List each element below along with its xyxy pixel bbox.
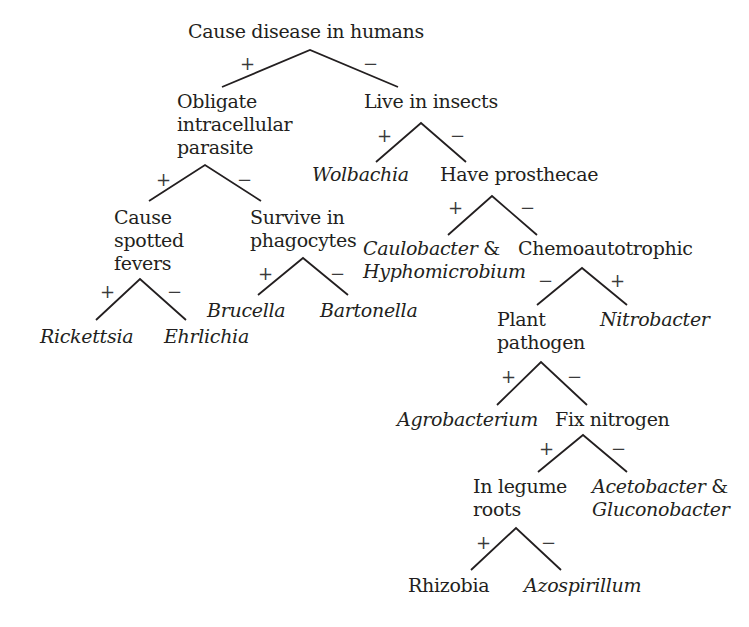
node-label-line: Wolbachia	[312, 163, 409, 186]
plus-branch-sign: +	[539, 440, 554, 458]
tree-node-ehrlichia: Ehrlichia	[164, 325, 249, 348]
node-label-line: Rickettsia	[40, 325, 133, 348]
tree-node-plant: Plantpathogen	[497, 308, 585, 354]
node-label-line: Survive in	[250, 206, 356, 229]
tree-node-rhizobia: Rhizobia	[408, 574, 489, 597]
tree-node-bartonella: Bartonella	[320, 299, 417, 322]
tree-node-chemo: Chemoautotrophic	[518, 237, 693, 260]
node-label-line: Hyphomicrobium	[363, 260, 526, 283]
minus-branch-sign: −	[450, 127, 465, 145]
node-label-line: Obligate	[177, 90, 292, 113]
minus-branch-sign: −	[538, 272, 553, 290]
plus-branch-sign: +	[448, 199, 463, 217]
node-label-line: Ehrlichia	[164, 325, 249, 348]
plus-branch-sign: +	[100, 283, 115, 301]
node-label-line: Bartonella	[320, 299, 417, 322]
node-label-line: pathogen	[497, 331, 585, 354]
node-label-line: spotted	[114, 229, 184, 252]
node-label-line: parasite	[177, 136, 292, 159]
tree-node-spotted: Causespottedfevers	[114, 206, 184, 275]
node-label-line: Chemoautotrophic	[518, 237, 693, 260]
node-label-line: fevers	[114, 252, 184, 275]
tree-node-phagocytes: Survive inphagocytes	[250, 206, 356, 252]
minus-branch-sign: −	[520, 199, 535, 217]
plus-branch-sign: +	[501, 368, 516, 386]
ampersand: &	[477, 237, 499, 259]
plus-branch-sign: +	[258, 265, 273, 283]
tree-node-rickettsia: Rickettsia	[40, 325, 133, 348]
minus-branch-sign: −	[167, 283, 182, 301]
node-label-line: Fix nitrogen	[555, 408, 670, 431]
plus-branch-sign: +	[377, 127, 392, 145]
node-label-line: In legume	[473, 475, 567, 498]
node-label-line: Agrobacterium	[397, 408, 538, 431]
plus-branch-sign: +	[156, 171, 171, 189]
tree-node-obligate: Obligateintracellularparasite	[177, 90, 292, 159]
minus-branch-sign: −	[541, 534, 556, 552]
minus-branch-sign: −	[567, 368, 582, 386]
node-label-line: Gluconobacter	[592, 498, 729, 521]
plus-branch-sign: +	[476, 534, 491, 552]
tree-node-brucella: Brucella	[207, 299, 285, 322]
node-label-line: phagocytes	[250, 229, 356, 252]
node-label-line: Rhizobia	[408, 574, 489, 597]
node-label-line: Nitrobacter	[600, 308, 710, 331]
tree-node-agro: Agrobacterium	[397, 408, 538, 431]
minus-branch-sign: −	[330, 265, 345, 283]
plus-branch-sign: +	[240, 55, 255, 73]
node-label-line: Azospirillum	[524, 574, 641, 597]
ampersand: &	[705, 475, 727, 497]
tree-node-azo: Azospirillum	[524, 574, 641, 597]
tree-node-prosthecae: Have prosthecae	[440, 163, 598, 186]
node-label-line: Cause	[114, 206, 184, 229]
node-label-line: Caulobacter &	[363, 237, 526, 260]
decision-tree-diagram: Cause disease in humansObligateintracell…	[0, 0, 749, 627]
tree-node-aceto: Acetobacter &Gluconobacter	[592, 475, 729, 521]
node-label-line: roots	[473, 498, 567, 521]
tree-node-nitrobacter: Nitrobacter	[600, 308, 710, 331]
node-label-line: Brucella	[207, 299, 285, 322]
node-label-line: Plant	[497, 308, 585, 331]
minus-branch-sign: −	[363, 55, 378, 73]
node-label-line: Live in insects	[364, 90, 498, 113]
tree-node-insects: Live in insects	[364, 90, 498, 113]
node-label-line: Cause disease in humans	[188, 20, 424, 43]
tree-node-wolbachia: Wolbachia	[312, 163, 409, 186]
plus-branch-sign: +	[610, 272, 625, 290]
tree-node-fix: Fix nitrogen	[555, 408, 670, 431]
minus-branch-sign: −	[611, 440, 626, 458]
tree-node-legume: In legumeroots	[473, 475, 567, 521]
tree-node-disease: Cause disease in humans	[188, 20, 424, 43]
node-label-line: Have prosthecae	[440, 163, 598, 186]
tree-node-caulo: Caulobacter &Hyphomicrobium	[363, 237, 526, 283]
node-label-line: intracellular	[177, 113, 292, 136]
minus-branch-sign: −	[237, 171, 252, 189]
node-label-line: Acetobacter &	[592, 475, 729, 498]
